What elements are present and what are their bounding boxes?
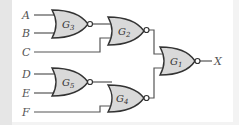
circuit-figure: A B C D E F G3 bbox=[0, 0, 239, 125]
input-label-b: B bbox=[21, 27, 30, 40]
input-label-a: A bbox=[21, 9, 30, 22]
inverter-bubble-icon bbox=[88, 22, 93, 27]
input-label-d: D bbox=[21, 68, 31, 81]
input-label-e: E bbox=[21, 87, 30, 100]
inverter-bubble-icon bbox=[144, 28, 149, 33]
logic-circuit-diagram: A B C D E F G3 bbox=[0, 0, 239, 125]
output-label-x: X bbox=[213, 55, 223, 68]
nor-gate-g2: G2 bbox=[108, 17, 149, 45]
input-label-f: F bbox=[21, 106, 30, 119]
nor-gate-g1: G1 bbox=[160, 47, 200, 75]
nor-gate-g5: G5 bbox=[52, 68, 93, 96]
inverter-bubble-icon bbox=[195, 59, 200, 64]
input-label-c: C bbox=[22, 46, 31, 59]
inverter-bubble-icon bbox=[88, 80, 93, 85]
nor-gate-g3: G3 bbox=[52, 10, 93, 38]
nor-gate-g4: G4 bbox=[108, 85, 149, 112]
inverter-bubble-icon bbox=[144, 96, 149, 101]
